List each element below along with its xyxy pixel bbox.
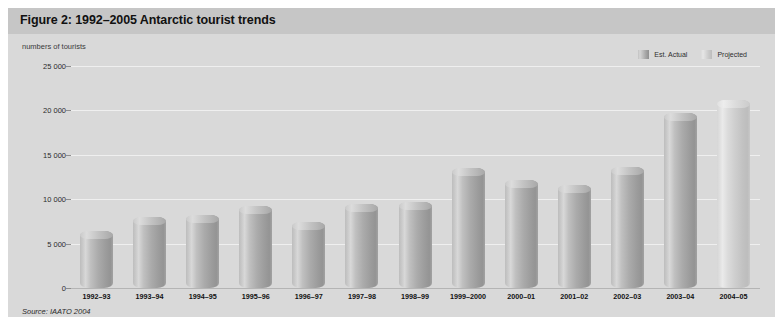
bar-actual[interactable] xyxy=(345,204,378,288)
bar-column[interactable] xyxy=(452,66,485,288)
page-title: Figure 2: 1992–2005 Antarctic tourist tr… xyxy=(20,13,276,27)
bar-actual[interactable] xyxy=(452,168,485,288)
x-tick-label: 1996–97 xyxy=(282,292,335,301)
x-tick-label: 1997–98 xyxy=(335,292,388,301)
legend-label-projected: Projected xyxy=(717,51,747,58)
x-tick-label: 1993–94 xyxy=(123,292,176,301)
x-tick-label: 1992–93 xyxy=(70,292,123,301)
bar-column[interactable] xyxy=(345,66,378,288)
x-tick-label: 1998–99 xyxy=(388,292,441,301)
x-tick-label: 2004–05 xyxy=(707,292,760,301)
legend-label-actual: Est. Actual xyxy=(654,51,687,58)
bar-top-ellipse xyxy=(664,113,697,121)
bar-top-ellipse xyxy=(292,222,325,230)
bar-actual[interactable] xyxy=(558,185,591,288)
x-tick-label: 1995–96 xyxy=(229,292,282,301)
bar-actual[interactable] xyxy=(186,215,219,288)
gridline-0 xyxy=(70,288,760,289)
bar-top-ellipse xyxy=(186,215,219,223)
bar-projected[interactable] xyxy=(717,100,750,288)
y-axis-tick-marks xyxy=(8,66,71,288)
bar-actual[interactable] xyxy=(664,113,697,288)
bar-top-ellipse xyxy=(399,202,432,210)
bar-column[interactable] xyxy=(399,66,432,288)
x-tick-label: 1999–2000 xyxy=(442,292,495,301)
bar-top-ellipse xyxy=(452,168,485,176)
bar-actual[interactable] xyxy=(292,222,325,288)
bar-top-ellipse xyxy=(611,167,644,175)
bar-actual[interactable] xyxy=(611,167,644,288)
x-axis-tick-labels: 1992–931993–941994–951995–961996–971997–… xyxy=(70,292,760,306)
bar-top-ellipse xyxy=(80,231,113,239)
bar-column[interactable] xyxy=(239,66,272,288)
bar-column[interactable] xyxy=(186,66,219,288)
bar-actual[interactable] xyxy=(239,206,272,288)
bar-column[interactable] xyxy=(505,66,538,288)
legend-item-actual[interactable]: Est. Actual xyxy=(638,50,687,59)
bar-actual[interactable] xyxy=(505,180,538,288)
bar-top-ellipse xyxy=(505,180,538,188)
bar-column[interactable] xyxy=(611,66,644,288)
x-tick-label: 1994–95 xyxy=(176,292,229,301)
x-tick-label: 2002–03 xyxy=(601,292,654,301)
bar-actual[interactable] xyxy=(399,202,432,288)
x-tick-label: 2003–04 xyxy=(654,292,707,301)
bar-series-group xyxy=(70,66,760,288)
bar-actual[interactable] xyxy=(80,231,113,288)
bar-column[interactable] xyxy=(664,66,697,288)
x-tick-label: 2000–01 xyxy=(495,292,548,301)
bar-top-ellipse xyxy=(133,217,166,225)
y-axis-caption: numbers of tourists xyxy=(22,42,86,51)
bar-top-ellipse xyxy=(717,100,750,108)
bar-top-ellipse xyxy=(558,185,591,193)
bar-column[interactable] xyxy=(292,66,325,288)
x-tick-label: 2001–02 xyxy=(548,292,601,301)
bar-column[interactable] xyxy=(717,66,750,288)
y-tick-mark xyxy=(66,288,71,289)
figure-panel: Figure 2: 1992–2005 Antarctic tourist tr… xyxy=(8,8,775,317)
bar-column[interactable] xyxy=(80,66,113,288)
bar-column[interactable] xyxy=(133,66,166,288)
bar-top-ellipse xyxy=(239,206,272,214)
bar-top-ellipse xyxy=(345,204,378,212)
bar-column[interactable] xyxy=(558,66,591,288)
legend-swatch-actual-icon xyxy=(638,50,649,59)
legend-item-projected[interactable]: Projected xyxy=(701,50,747,59)
source-note: Source: IAATO 2004 xyxy=(22,307,91,316)
figure-title-bar: Figure 2: 1992–2005 Antarctic tourist tr… xyxy=(8,8,775,34)
bar-actual[interactable] xyxy=(133,217,166,288)
legend-swatch-projected-icon xyxy=(701,50,712,59)
chart-legend: Est. Actual Projected xyxy=(638,50,747,59)
